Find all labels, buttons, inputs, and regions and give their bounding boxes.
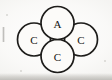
circle-top-label: A — [54, 18, 62, 30]
circles-diagram: C C C A — [0, 0, 112, 80]
circle-left-label: C — [30, 34, 37, 46]
circle-right-label: C — [77, 34, 84, 46]
circle-group-bottom: C — [41, 40, 74, 73]
figure-container: C C C A — [0, 0, 112, 80]
circle-bottom-label: C — [54, 51, 61, 63]
circle-group-top: A — [41, 7, 74, 40]
